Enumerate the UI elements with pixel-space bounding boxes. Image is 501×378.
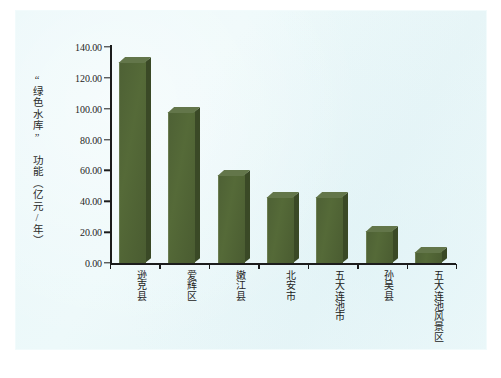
y-tick-label: 80.00 [48, 134, 102, 145]
x-tick-mark [258, 264, 259, 269]
x-tick-mark [110, 264, 111, 269]
bar-front-face [415, 252, 442, 263]
bar [316, 197, 342, 263]
bar [168, 112, 194, 263]
y-tick-label: 0.00 [48, 258, 102, 269]
y-axis-tick-labels: 0.0020.0040.0060.0080.00100.00120.00140.… [48, 0, 102, 378]
x-tick-mark [407, 264, 408, 269]
bar [119, 62, 145, 263]
x-tick-label: 逊克县 [124, 270, 146, 301]
y-tick-label: 40.00 [48, 196, 102, 207]
bar-front-face [119, 62, 146, 263]
x-tick-label: 北安市 [272, 270, 294, 301]
bar-top-face [218, 170, 250, 176]
y-tick-mark [104, 201, 110, 202]
x-axis-line [110, 263, 456, 265]
bar [366, 231, 392, 263]
x-tick-label: 嫩江县 [223, 270, 245, 301]
y-tick-mark [104, 108, 110, 109]
y-tick-mark [104, 46, 110, 47]
bar-top-face [267, 192, 299, 198]
y-tick-label: 100.00 [48, 103, 102, 114]
bar [415, 252, 441, 263]
y-tick-label: 120.00 [48, 72, 102, 83]
x-tick-mark [456, 264, 457, 269]
y-tick-label: 140.00 [48, 42, 102, 53]
y-tick-label: 20.00 [48, 227, 102, 238]
y-tick-mark [104, 77, 110, 78]
x-tick-label: 五大连池风景区 [420, 270, 442, 342]
x-tick-label: 爱辉区 [173, 270, 195, 301]
bar [267, 197, 293, 263]
bar-front-face [267, 197, 294, 263]
y-axis-line [110, 45, 112, 264]
bar-front-face [218, 175, 245, 263]
x-tick-label: 五大连池市 [321, 270, 343, 322]
y-tick-label: 60.00 [48, 165, 102, 176]
bar-top-face [366, 226, 398, 232]
x-tick-mark [159, 264, 160, 269]
y-axis-title: “绿色水库” 功能（亿元/年） [27, 60, 47, 260]
x-tick-mark [209, 264, 210, 269]
bar-front-face [316, 197, 343, 263]
x-tick-mark [308, 264, 309, 269]
y-tick-mark [104, 170, 110, 171]
scanned-page: “绿色水库” 功能（亿元/年） 0.0020.0040.0060.0080.00… [0, 0, 501, 378]
x-tick-label: 孙吴县 [371, 270, 393, 301]
x-tick-mark [357, 264, 358, 269]
y-tick-mark [104, 139, 110, 140]
bar-chart: “绿色水库” 功能（亿元/年） 0.0020.0040.0060.0080.00… [0, 0, 501, 378]
bar-front-face [168, 112, 195, 263]
bar-front-face [366, 231, 393, 263]
bar [218, 175, 244, 263]
y-tick-mark [104, 231, 110, 232]
